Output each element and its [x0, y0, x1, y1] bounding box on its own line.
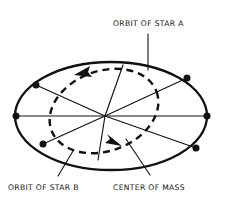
radial-line-lower-left — [43, 116, 105, 144]
direction-arrow-star-b — [105, 134, 122, 146]
star-position-dot — [184, 75, 191, 82]
star-position-dot — [204, 113, 211, 120]
star-position-dot — [33, 82, 40, 89]
leader-lines — [58, 34, 150, 176]
star-position-dot — [40, 141, 47, 148]
figure-canvas: ORBIT OF STAR A ORBIT OF STAR B CENTER O… — [0, 0, 226, 201]
direction-arrow-star-a — [74, 66, 92, 77]
binary-star-orbit-diagram: ORBIT OF STAR A ORBIT OF STAR B CENTER O… — [0, 0, 226, 201]
radial-line-upper-right — [105, 78, 187, 116]
leader-line-orbit-star-b — [58, 151, 73, 176]
star-position-dot — [193, 145, 200, 152]
radial-line-upper-left — [36, 85, 105, 116]
radial-line-lower-right — [105, 116, 196, 148]
label-center-of-mass: CENTER OF MASS — [113, 183, 185, 192]
label-orbit-star-b: ORBIT OF STAR B — [8, 183, 79, 192]
star-position-dot — [13, 113, 20, 120]
label-orbit-star-a: ORBIT OF STAR A — [113, 19, 184, 28]
